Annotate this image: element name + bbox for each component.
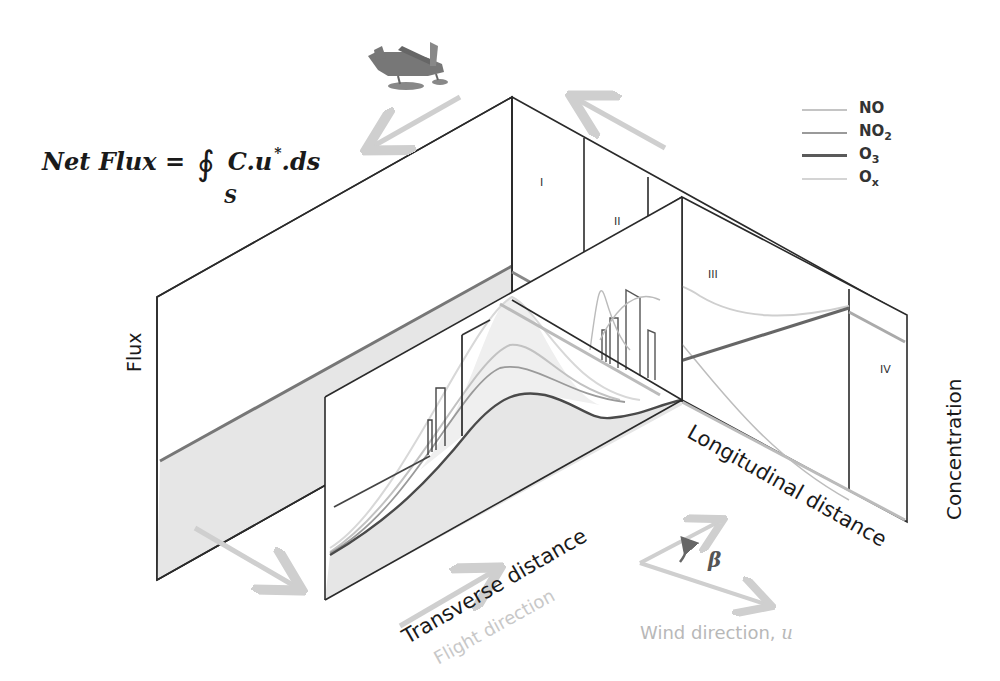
concentration-axis-label: Concentration bbox=[942, 379, 966, 520]
legend-item-no2: NO2 bbox=[802, 121, 892, 144]
region-label-i: I bbox=[540, 176, 543, 189]
legend-label: NO bbox=[859, 99, 884, 120]
aircraft-icon bbox=[368, 42, 448, 90]
legend-item-o3: O3 bbox=[802, 144, 892, 167]
region-label-iii: III bbox=[708, 268, 718, 281]
legend-swatch-o3 bbox=[802, 154, 847, 157]
angle-beta-label: β bbox=[708, 548, 721, 572]
flux-axis-label: Flux bbox=[123, 333, 145, 373]
formula-superscript: * bbox=[274, 145, 281, 161]
net-flux-formula: Net Flux = ∮ C.u*.ds S bbox=[42, 138, 320, 178]
legend-swatch-no bbox=[802, 109, 847, 111]
contour-integral-symbol: ∮ bbox=[197, 143, 215, 183]
legend-swatch-no2 bbox=[802, 132, 847, 134]
legend-label: O3 bbox=[859, 145, 879, 166]
region-label-iv: IV bbox=[880, 363, 891, 376]
legend-label: NO2 bbox=[859, 122, 892, 143]
formula-subscript: S bbox=[224, 186, 237, 207]
diagram-canvas: Net Flux = ∮ C.u*.ds S NO NO2 O3 Ox I II… bbox=[0, 0, 1000, 681]
formula-lhs: Net Flux = bbox=[42, 147, 185, 176]
legend-item-ox: Ox bbox=[802, 167, 892, 190]
formula-integrand: C.u bbox=[228, 147, 272, 176]
region-label-ii: II bbox=[614, 215, 621, 228]
legend: NO NO2 O3 Ox bbox=[802, 98, 892, 190]
legend-swatch-ox bbox=[802, 178, 847, 180]
wind-angle-diagram bbox=[640, 521, 768, 605]
formula-tail: .ds bbox=[282, 147, 321, 176]
legend-item-no: NO bbox=[802, 98, 892, 121]
legend-label: Ox bbox=[859, 168, 879, 189]
wind-direction-label: Wind direction, u bbox=[640, 622, 793, 643]
